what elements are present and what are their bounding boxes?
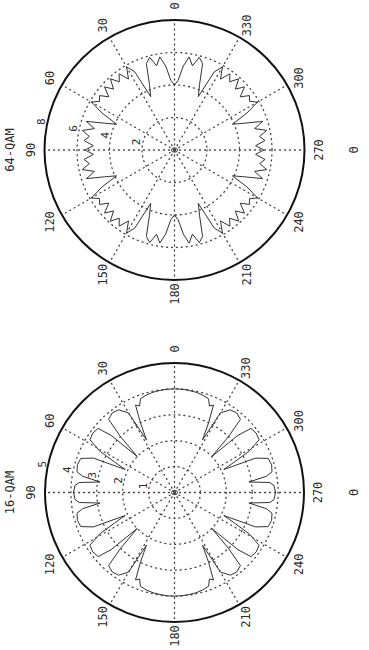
grid-spoke [175, 150, 288, 215]
angle-tick-label: 30 [96, 18, 110, 32]
theta-axis-label: Θ [347, 489, 361, 496]
grid-spoke [110, 37, 175, 150]
angle-tick-label: 270 [311, 482, 325, 504]
angle-tick-label: 120 [43, 553, 57, 575]
polar-plot-16qam: 03060901201501802102402703003301234516-Q… [3, 345, 361, 646]
radial-tick-label: 4 [99, 132, 112, 139]
angle-tick-label: 240 [292, 553, 306, 575]
grid-spoke [62, 150, 175, 215]
angle-tick-label: 300 [292, 410, 306, 432]
grid-spoke [62, 85, 175, 150]
grid-spoke [175, 85, 288, 150]
grid-spoke [110, 150, 175, 263]
angle-tick-label: 330 [240, 14, 254, 36]
angle-tick-label: 30 [96, 361, 110, 375]
radial-tick-label: 1 [137, 483, 150, 490]
angle-tick-label: 150 [96, 264, 110, 286]
grid-spoke [175, 150, 240, 263]
grid-spoke [175, 37, 240, 150]
radial-tick-label: 2 [112, 477, 125, 484]
angle-tick-label: 150 [96, 606, 110, 628]
angle-tick-label: 0 [168, 345, 182, 352]
angle-tick-label: 180 [168, 625, 182, 647]
angle-tick-label: 90 [24, 143, 38, 157]
angle-tick-label: 0 [168, 2, 182, 9]
plot-title: 16-QAM [3, 471, 17, 514]
radial-tick-label: 2 [130, 139, 143, 146]
figure: 0306090120150180210240270300330246864-QA… [0, 0, 369, 650]
plot-title: 64-QAM [3, 128, 17, 171]
radial-tick-label: 8 [35, 118, 48, 125]
angle-tick-label: 210 [239, 606, 253, 628]
angle-tick-label: 90 [24, 485, 38, 499]
angle-tick-label: 330 [239, 357, 253, 379]
angle-tick-label: 120 [43, 211, 57, 233]
radial-tick-label: 6 [67, 125, 80, 132]
angle-tick-label: 60 [43, 414, 57, 428]
angle-tick-label: 180 [168, 283, 182, 305]
angle-tick-label: 270 [312, 139, 326, 161]
radial-tick-label: 3 [86, 472, 99, 479]
polar-plot-64qam: 0306090120150180210240270300330246864-QA… [3, 2, 361, 304]
angle-tick-label: 60 [43, 71, 57, 85]
angle-tick-label: 210 [240, 264, 254, 286]
theta-axis-label: Θ [347, 146, 361, 153]
radial-tick-label: 5 [36, 461, 49, 468]
radial-tick-label: 4 [61, 466, 74, 473]
angle-tick-label: 240 [292, 211, 306, 233]
angle-tick-label: 300 [292, 67, 306, 89]
